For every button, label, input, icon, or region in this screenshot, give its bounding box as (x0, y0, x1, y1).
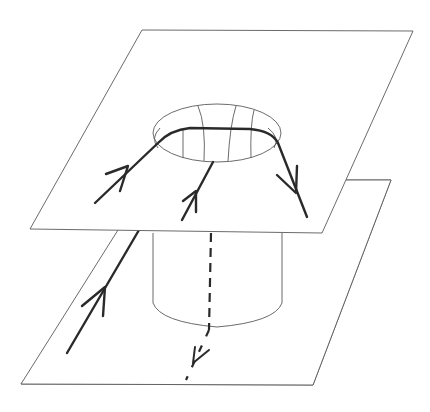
diagram-canvas (0, 0, 430, 412)
diagram (0, 0, 430, 412)
